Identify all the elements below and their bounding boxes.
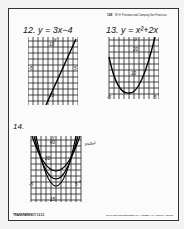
problem-number: 13. [106,25,119,35]
graph-13-parabola: y2010 -55x [107,37,159,99]
svg-text:20: 20 [132,47,139,52]
svg-text:-5: -5 [29,182,33,187]
svg-text:10: 10 [49,42,55,47]
page-number: 128 [107,13,112,17]
curve-label-y-2x2: y=2x² [85,141,95,146]
book-credit: To be used with ELEMENTARY ALGEBRA by Ha… [106,214,173,217]
svg-text:-5: -5 [107,95,111,99]
graph-12-line: y10-5 5x10 [28,37,78,105]
svg-text:15: 15 [50,197,56,202]
svg-text:-5: -5 [29,66,33,71]
svg-text:40: 40 [50,140,56,145]
problem-equation: y = x²+2x [121,25,158,35]
problem-number: 12. [23,25,36,35]
svg-text:x: x [157,92,159,97]
publisher-note: W. H. Freeman and Company San Francisco [115,14,167,17]
svg-text:5: 5 [74,66,77,71]
svg-text:5: 5 [75,182,78,187]
svg-text:y: y [134,37,138,41]
transparency-label: TRANSPARENCY 12-13 [13,213,44,217]
problem-13-label: 13. y = x²+2x [106,25,158,35]
transparency-page: 128 W. H. Freeman and Company San Franci… [8,8,179,221]
svg-text:10: 10 [49,93,55,98]
header-note: 128 W. H. Freeman and Company San Franci… [107,13,167,17]
problem-12-label: 12. y = 3x−4 [23,25,73,35]
graph-14-parabola-family: y4020 -55x15 [29,136,83,202]
svg-text:10: 10 [131,71,137,76]
svg-text:20: 20 [44,156,51,161]
svg-text:x: x [77,63,78,68]
problem-14-label: 14. [13,122,24,131]
svg-text:5: 5 [154,95,157,99]
problem-equation: y = 3x−4 [38,25,73,35]
problem-number: 14. [13,122,24,131]
svg-text:x: x [78,179,82,184]
